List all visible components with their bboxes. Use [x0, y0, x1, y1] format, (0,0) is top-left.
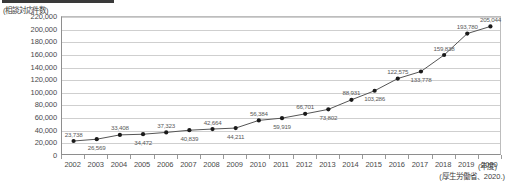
- x-axis-tick-label: 2006: [157, 160, 173, 169]
- x-axis-tick: [107, 155, 108, 159]
- x-axis-tick-label: 2015: [365, 160, 381, 169]
- y-axis-tick-label: 160,000: [31, 49, 57, 58]
- x-axis-tick: [200, 155, 201, 159]
- source-note: (厚生労働省、2020.): [439, 170, 505, 181]
- data-point-marker: [187, 128, 191, 132]
- x-axis-tick: [501, 155, 502, 159]
- y-axis-tick-label: 40,000: [35, 125, 57, 134]
- data-point-label: 37,323: [157, 121, 175, 128]
- y-axis-tick-label: 0: [53, 151, 57, 160]
- y-axis-tick-label: 220,000: [31, 12, 57, 21]
- data-point-label: 122,575: [387, 68, 408, 75]
- data-point-marker: [488, 24, 492, 28]
- x-axis-tick: [385, 155, 386, 159]
- data-point-marker: [396, 76, 400, 80]
- data-point-marker: [257, 118, 261, 122]
- data-point-marker: [326, 107, 330, 111]
- x-axis-tick-label: 2013: [319, 160, 335, 169]
- x-axis-tick: [246, 155, 247, 159]
- x-axis-tick: [154, 155, 155, 159]
- data-point-marker: [118, 133, 122, 137]
- data-point-label: 33,408: [111, 124, 129, 131]
- x-axis-tick-label: 2008: [203, 160, 219, 169]
- x-axis-tick-label: 2003: [88, 160, 104, 169]
- y-axis-tick-label: 60,000: [35, 113, 57, 122]
- data-point-label: 34,472: [134, 138, 152, 145]
- data-point-marker: [419, 69, 423, 73]
- x-axis-tick: [478, 155, 479, 159]
- x-axis-tick-label: 2019: [458, 160, 474, 169]
- data-point-marker: [280, 116, 284, 120]
- x-axis-tick: [339, 155, 340, 159]
- data-point-label: 26,569: [88, 143, 106, 150]
- y-axis-tick-label: 80,000: [35, 100, 57, 109]
- data-point-marker: [373, 89, 377, 93]
- x-axis-tick-label: 2016: [389, 160, 405, 169]
- data-point-marker: [164, 130, 168, 134]
- data-point-label: 103,286: [364, 95, 385, 102]
- x-axis-tick: [316, 155, 317, 159]
- x-axis-tick-label: 2010: [250, 160, 266, 169]
- x-axis-tick-label: 2014: [342, 160, 358, 169]
- x-axis-tick: [269, 155, 270, 159]
- x-axis-tick: [408, 155, 409, 159]
- y-axis-tick-label: 20,000: [35, 138, 57, 147]
- x-axis-tick: [455, 155, 456, 159]
- data-point-marker: [210, 127, 214, 131]
- y-axis-tick-label: 140,000: [31, 62, 57, 71]
- x-axis-tick-label: 2007: [180, 160, 196, 169]
- x-axis-tick: [293, 155, 294, 159]
- x-axis-tick: [130, 155, 131, 159]
- y-axis-tick-label: 200,000: [31, 24, 57, 33]
- data-point-label: 56,384: [250, 109, 268, 116]
- x-axis-tick-label: 2018: [435, 160, 451, 169]
- y-axis-tick-label: 100,000: [31, 87, 57, 96]
- data-point-marker: [349, 98, 353, 102]
- data-point-marker: [442, 53, 446, 57]
- x-axis-tick: [84, 155, 85, 159]
- x-axis-tick: [223, 155, 224, 159]
- data-point-label: 73,802: [319, 113, 337, 120]
- data-point-label: 23,738: [65, 130, 83, 137]
- data-point-marker: [465, 31, 469, 35]
- x-axis-tick: [362, 155, 363, 159]
- data-point-label: 88,931: [343, 89, 361, 96]
- data-point-marker: [71, 139, 75, 143]
- x-axis-tick-label: 2012: [296, 160, 312, 169]
- y-axis-tick-labels: 020,00040,00060,00080,000100,000120,0001…: [0, 16, 57, 155]
- x-axis-tick-label: 2017: [412, 160, 428, 169]
- data-point-marker: [303, 112, 307, 116]
- data-point-label: 205,044: [480, 15, 501, 22]
- x-axis-tick: [432, 155, 433, 159]
- data-point-marker: [95, 137, 99, 141]
- x-axis-tick-label: 2009: [227, 160, 243, 169]
- chart-plot-area: 23,73826,56933,40834,47237,32340,83942,6…: [61, 16, 501, 155]
- x-axis-tick-label: 2002: [64, 160, 80, 169]
- x-axis-tick: [177, 155, 178, 159]
- y-axis-tick-label: 120,000: [31, 75, 57, 84]
- data-point-label: 66,701: [296, 103, 314, 110]
- data-point-label: 133,778: [410, 75, 431, 82]
- data-point-label: 44,211: [227, 132, 244, 139]
- y-axis-tick-label: 180,000: [31, 37, 57, 46]
- x-axis-tick: [61, 155, 62, 159]
- data-point-marker: [141, 132, 145, 136]
- data-point-marker: [234, 126, 238, 130]
- clipped-header-bar: [2, 0, 114, 3]
- line-series: [62, 17, 502, 156]
- data-point-label: 159,838: [434, 44, 455, 51]
- data-point-label: 40,839: [180, 134, 198, 141]
- x-axis-tick-label: 2011: [273, 160, 289, 169]
- data-point-label: 193,780: [457, 23, 478, 30]
- data-point-label: 42,664: [204, 118, 222, 125]
- x-axis-tick-label: 2005: [134, 160, 150, 169]
- data-point-label: 59,919: [273, 122, 291, 129]
- x-axis-tick-label: 2004: [111, 160, 127, 169]
